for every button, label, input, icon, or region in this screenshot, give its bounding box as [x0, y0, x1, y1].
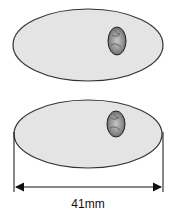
dimension-label: 41mm [0, 197, 174, 211]
bottom-inclusion [107, 111, 125, 137]
diagram-canvas [0, 0, 174, 217]
bottom-oval [14, 100, 162, 168]
top-oval [13, 9, 163, 81]
top-inclusion [108, 27, 126, 55]
